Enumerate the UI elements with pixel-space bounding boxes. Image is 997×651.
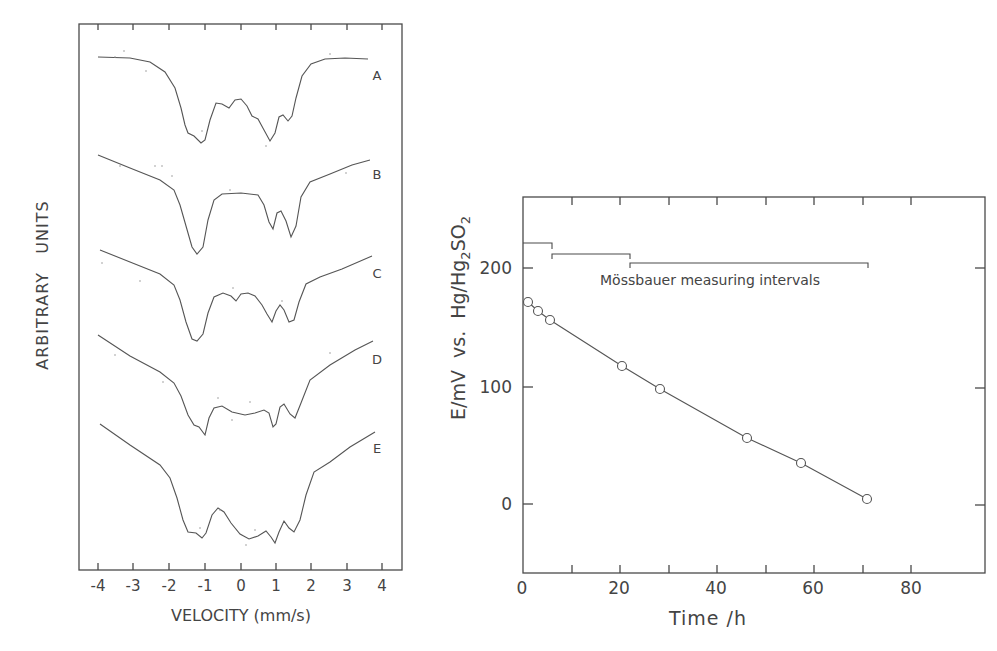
potential-frame bbox=[523, 197, 985, 573]
ylabel-so: SO bbox=[447, 224, 469, 251]
spectrum-label-a: A bbox=[373, 68, 382, 83]
measuring-interval-brackets bbox=[523, 243, 868, 268]
spectrum-d bbox=[98, 335, 373, 435]
data-point bbox=[534, 307, 543, 316]
data-point bbox=[656, 385, 665, 394]
data-point bbox=[524, 298, 533, 307]
spectra-data-points bbox=[101, 50, 347, 546]
tick-label: -3 bbox=[126, 577, 141, 595]
figure: -4 -3 -2 -1 0 1 2 3 4 VELOCITY (mm/s) AR… bbox=[0, 0, 997, 651]
velocity-axis-title: VELOCITY (mm/s) bbox=[171, 606, 311, 625]
x-tick-label: 60 bbox=[802, 578, 824, 598]
x-tick-label: 0 bbox=[517, 578, 528, 598]
tick-label: -1 bbox=[198, 577, 213, 595]
y-tick-label: 0 bbox=[501, 494, 512, 514]
potential-line bbox=[528, 302, 867, 499]
svg-text:E/mV vs. Hg/Hg2SO2: E/mV vs. Hg/Hg2SO2 bbox=[447, 216, 473, 420]
spectra-x-tick-labels: -4 -3 -2 -1 0 1 2 3 4 bbox=[91, 577, 387, 595]
spectrum-c bbox=[100, 250, 372, 341]
tick-label: 1 bbox=[271, 577, 281, 595]
spectra-top-ticks bbox=[98, 24, 382, 30]
y-tick-label: 200 bbox=[480, 258, 512, 278]
tick-label: 3 bbox=[342, 577, 352, 595]
spectrum-label-b: B bbox=[373, 167, 382, 182]
arbitrary-units-axis-title: ARBITRARY UNITS bbox=[33, 200, 52, 369]
data-point bbox=[546, 316, 555, 325]
potential-right-ticks bbox=[975, 268, 985, 505]
y-tick-label: 100 bbox=[480, 377, 512, 397]
spectrum-label-e: E bbox=[373, 441, 381, 456]
data-point bbox=[797, 459, 806, 468]
spectrum-b bbox=[98, 155, 370, 254]
tick-label: -4 bbox=[91, 577, 106, 595]
ylabel-main: E/mV vs. Hg/Hg bbox=[447, 260, 469, 420]
ylabel-subscript: 2 bbox=[458, 216, 473, 224]
measuring-intervals-annotation: Mössbauer measuring intervals bbox=[600, 272, 820, 288]
x-tick-label: 40 bbox=[705, 578, 727, 598]
tick-label: 4 bbox=[377, 577, 387, 595]
time-axis-title: Time /h bbox=[668, 607, 747, 629]
spectra-bottom-ticks bbox=[98, 563, 382, 570]
spectrum-a bbox=[98, 57, 368, 143]
x-tick-label: 20 bbox=[608, 578, 630, 598]
spectrum-label-d: D bbox=[372, 352, 382, 367]
spectra-panel: -4 -3 -2 -1 0 1 2 3 4 VELOCITY (mm/s) AR… bbox=[33, 24, 402, 625]
potential-bottom-ticks bbox=[572, 565, 911, 573]
tick-label: -2 bbox=[162, 577, 177, 595]
ylabel-subscript: 2 bbox=[458, 251, 473, 259]
potential-axis-title: E/mV vs. Hg/Hg2SO2 bbox=[447, 216, 473, 420]
potential-panel: 200 100 0 0 20 40 60 80 Time /h E/mV vs.… bbox=[447, 197, 985, 629]
data-point bbox=[618, 362, 627, 371]
tick-label: 0 bbox=[236, 577, 246, 595]
x-tick-label: 80 bbox=[900, 578, 922, 598]
spectrum-label-c: C bbox=[372, 266, 381, 281]
potential-top-ticks bbox=[572, 197, 911, 205]
spectra-frame bbox=[79, 24, 402, 570]
data-point bbox=[743, 434, 752, 443]
data-point bbox=[863, 495, 872, 504]
tick-label: 2 bbox=[306, 577, 316, 595]
spectrum-e bbox=[100, 424, 375, 543]
